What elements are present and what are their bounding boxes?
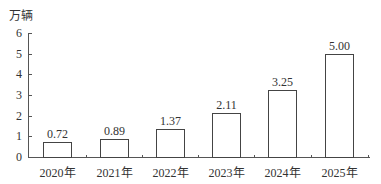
y-tick-label: 4 — [8, 68, 22, 80]
bar-chart: 万辆 0123456 0.722020年0.892021年1.372022年2.… — [0, 0, 381, 184]
bar-value-label: 3.25 — [253, 76, 313, 88]
bar-value-label: 1.37 — [141, 115, 201, 127]
y-tick-mark — [28, 54, 32, 55]
y-tick-mark — [28, 33, 32, 34]
y-tick-label: 6 — [8, 27, 22, 39]
bar-value-label: 0.72 — [28, 128, 88, 140]
y-tick-mark — [28, 95, 32, 96]
x-tick-mark — [368, 155, 369, 158]
x-category-label: 2024年 — [253, 163, 313, 181]
y-tick-label: 2 — [8, 110, 22, 122]
bar — [212, 113, 241, 158]
bar — [268, 90, 297, 158]
y-tick-label: 0 — [8, 151, 22, 163]
y-tick-label: 5 — [8, 48, 22, 60]
bar — [100, 139, 129, 158]
bar — [43, 142, 72, 158]
bar-value-label: 5.00 — [310, 40, 370, 52]
bar-value-label: 2.11 — [197, 99, 257, 111]
x-category-label: 2023年 — [197, 163, 257, 181]
x-tick-mark — [86, 155, 87, 158]
y-tick-mark — [28, 157, 32, 158]
x-tick-mark — [254, 155, 255, 158]
x-tick-mark — [142, 155, 143, 158]
y-tick-label: 1 — [8, 130, 22, 142]
x-tick-mark — [198, 155, 199, 158]
x-category-label: 2022年 — [141, 163, 201, 181]
x-category-label: 2021年 — [85, 163, 145, 181]
bar-value-label: 0.89 — [85, 125, 145, 137]
y-tick-mark — [28, 74, 32, 75]
x-category-label: 2020年 — [28, 163, 88, 181]
y-tick-mark — [28, 116, 32, 117]
bar — [325, 54, 354, 158]
y-tick-label: 3 — [8, 89, 22, 101]
x-axis — [28, 157, 370, 158]
bar — [156, 129, 185, 158]
x-tick-mark — [311, 155, 312, 158]
y-axis-unit: 万辆 — [9, 6, 33, 24]
x-category-label: 2025年 — [310, 163, 370, 181]
